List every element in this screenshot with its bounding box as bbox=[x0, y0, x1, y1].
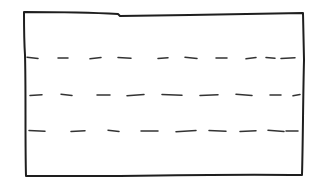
dash-segment bbox=[185, 57, 197, 58]
dash-segment bbox=[209, 131, 226, 132]
dash-segment bbox=[162, 95, 182, 96]
dash-segment bbox=[200, 95, 218, 96]
dash-segment bbox=[268, 130, 284, 131]
dash-segment bbox=[158, 58, 168, 59]
text-line-3 bbox=[29, 130, 298, 132]
dash-segment bbox=[29, 131, 45, 132]
text-line-1 bbox=[27, 57, 295, 59]
dash-segment bbox=[27, 57, 38, 58]
dash-segment bbox=[246, 58, 256, 59]
dash-segment bbox=[61, 94, 72, 95]
text-line-placeholders bbox=[27, 57, 300, 132]
dash-segment bbox=[240, 131, 256, 132]
dash-segment bbox=[266, 58, 275, 59]
dash-segment bbox=[90, 58, 101, 59]
dash-segment bbox=[176, 131, 196, 132]
dash-segment bbox=[71, 131, 85, 132]
dash-segment bbox=[281, 58, 295, 59]
dash-segment bbox=[236, 94, 252, 95]
dash-segment bbox=[293, 95, 300, 96]
wireframe-text-box bbox=[0, 0, 320, 189]
dash-segment bbox=[30, 95, 42, 96]
dash-segment bbox=[127, 95, 144, 96]
dash-segment bbox=[108, 130, 119, 131]
dash-segment bbox=[118, 58, 131, 59]
text-line-2 bbox=[30, 94, 300, 96]
